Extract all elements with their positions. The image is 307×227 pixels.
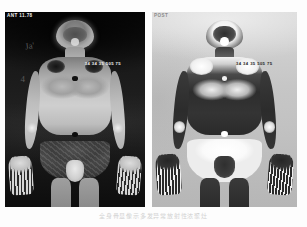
nasal-uptake-focus [220,37,229,46]
left-thigh-region [51,178,71,207]
right-arm-region [258,70,279,149]
scan-panel-right[interactable]: POST 34 34 35 505 75 [152,12,297,207]
left-supraclavicular-focus [190,58,213,76]
umbilical-marker [221,131,228,137]
sternal-focus [72,76,78,81]
right-thigh-region [79,178,99,207]
left-elbow-focus [174,121,186,133]
right-hand-region [267,154,294,197]
left-elbow-focus [27,123,37,133]
right-hand-region [116,156,142,197]
figure-page: Ja' 4 ANT 11.78 34 34 35 505 75 [0,0,307,227]
scribble-mark-1: Ja' [24,41,34,52]
umbilical-marker [72,132,78,137]
right-thigh-region [229,178,249,207]
left-hand-region [8,156,34,197]
left-thigh-region [200,178,220,207]
right-arm-region [107,70,127,149]
bladder-uptake-region [214,156,234,177]
figure-caption: 全身骨显像示多发异常放射性浓聚灶 [0,211,307,220]
right-elbow-focus [264,121,276,133]
scribble-mark-2: 4 [20,74,25,84]
body-render-right [152,12,297,207]
left-arm-region [170,70,191,149]
scan-panel-left[interactable]: Ja' 4 ANT 11.78 34 34 35 505 75 [5,12,145,207]
right-elbow-focus [113,123,123,133]
left-hand-region [155,154,182,197]
